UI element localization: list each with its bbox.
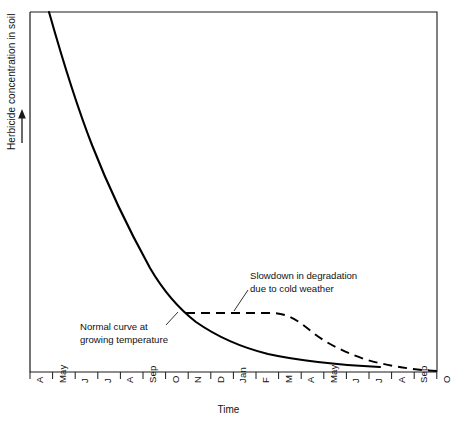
- x-tick-label-2: J: [79, 378, 90, 383]
- y-axis-label: Herbicide concentration in soil: [6, 13, 17, 150]
- plot-frame-border: [30, 12, 437, 372]
- x-tick-label-18: O: [441, 375, 452, 383]
- annotation-slowdown: Slowdown in degradation due to cold weat…: [250, 270, 357, 295]
- x-tick-label-6: O: [170, 375, 181, 383]
- herbicide-degradation-chart: Herbicide concentration in soil A May J …: [0, 0, 457, 429]
- annotation-normal-curve-line2: growing temperature: [80, 334, 168, 347]
- y-axis-arrow-icon: [18, 109, 26, 143]
- x-tick-label-1: May: [57, 364, 68, 383]
- x-tick-label-14: J: [350, 378, 361, 383]
- chart-plot-area: [0, 0, 457, 429]
- x-tick-label-4: A: [124, 376, 135, 383]
- annotation-normal-curve-line1: Normal curve at: [80, 321, 168, 334]
- x-tick-label-15: J: [373, 378, 384, 383]
- x-tick-label-9: Jan: [237, 367, 248, 383]
- series-normal-curve: [49, 12, 380, 367]
- annotation-slowdown-line1: Slowdown in degradation: [250, 270, 357, 283]
- annotation-normal-curve: Normal curve at growing temperature: [80, 321, 168, 346]
- x-tick-label-8: D: [215, 376, 226, 383]
- x-tick-label-10: F: [260, 377, 271, 383]
- x-axis-label: Time: [0, 404, 457, 415]
- x-tick-label-0: A: [34, 376, 45, 383]
- annotation-slowdown-line2: due to cold weather: [250, 283, 357, 296]
- x-tick-label-11: M: [283, 375, 294, 383]
- x-tick-label-3: J: [102, 378, 113, 383]
- plot-axes: [30, 12, 437, 372]
- x-tick-label-13: May: [328, 364, 339, 383]
- x-tick-label-12: A: [305, 376, 316, 383]
- x-tick-label-16: A: [396, 376, 407, 383]
- x-tick-label-5: Sep: [147, 365, 158, 383]
- leader-line-slowdown: [234, 290, 248, 311]
- x-tick-label-17: Sep: [418, 365, 429, 383]
- x-tick-label-7: N: [192, 376, 203, 383]
